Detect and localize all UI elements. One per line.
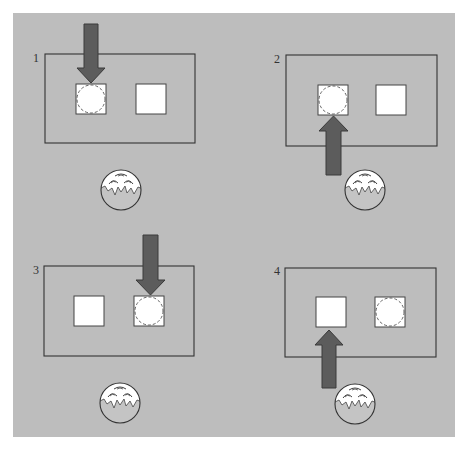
box-with-circle (76, 84, 106, 114)
four-panel-diagram: 1 2 3 4 (13, 13, 455, 437)
panel-label-1: 1 (33, 51, 39, 65)
box-with-circle (318, 85, 348, 115)
hatching-egg-face-icon (98, 381, 142, 423)
panel-frame (44, 266, 194, 356)
panel-1: 1 (33, 24, 195, 210)
hatching-egg-face-icon (99, 168, 143, 210)
panel-frame (45, 54, 195, 143)
panel-4: 4 (274, 264, 436, 424)
panel-label-3: 3 (33, 263, 39, 277)
empty-box (136, 84, 166, 114)
empty-box (74, 296, 104, 326)
box-with-circle (375, 297, 405, 327)
panel-label-4: 4 (274, 264, 280, 278)
panel-frame (286, 55, 437, 146)
hatching-egg-face-icon (343, 168, 387, 210)
empty-box (376, 85, 406, 115)
panel-label-2: 2 (274, 52, 280, 66)
arrow-down-icon (136, 235, 165, 295)
panel-frame (285, 268, 436, 357)
figure-background: 1 2 3 4 (13, 13, 455, 437)
panel-3: 3 (33, 235, 194, 423)
box-with-circle (134, 296, 164, 326)
panel-2: 2 (274, 52, 437, 210)
empty-box (316, 297, 346, 327)
hatching-egg-face-icon (333, 382, 377, 424)
arrow-up-icon (315, 330, 343, 388)
